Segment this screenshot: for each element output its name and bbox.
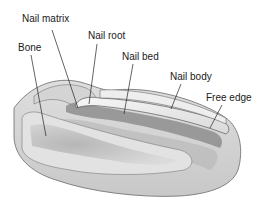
label-nail-matrix: Nail matrix [22,13,69,24]
nail-anatomy-illustration [0,0,266,208]
label-nail-bed: Nail bed [122,51,159,62]
label-bone: Bone [18,42,41,53]
label-nail-root: Nail root [88,30,125,41]
label-free-edge: Free edge [206,92,252,103]
label-nail-body: Nail body [170,71,212,82]
